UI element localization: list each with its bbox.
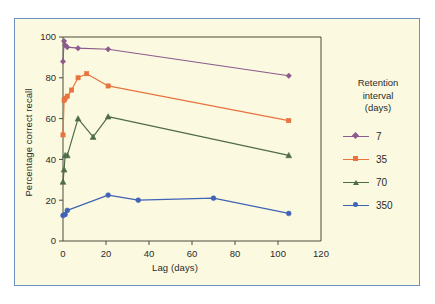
data-point (61, 133, 65, 137)
series-35 (61, 72, 291, 137)
x-tick-label: 100 (270, 248, 286, 259)
data-point (60, 59, 65, 64)
data-point (70, 88, 74, 92)
x-tick-label: 60 (187, 248, 198, 259)
data-point (106, 193, 111, 198)
data-point (136, 198, 141, 203)
x-tick-label: 20 (101, 248, 112, 259)
legend: Retention interval (days) 73570350 (337, 77, 419, 217)
y-tick-label: 40 (45, 154, 56, 165)
legend-item-350[interactable]: 350 (337, 194, 419, 217)
data-point (287, 119, 291, 123)
data-point (65, 208, 70, 213)
y-tick-label: 100 (40, 31, 56, 42)
legend-item-label: 7 (376, 131, 382, 142)
x-tick-label: 40 (144, 248, 155, 259)
legend-item-label: 350 (376, 200, 393, 211)
legend-marker-icon (353, 180, 359, 185)
axes (63, 37, 321, 241)
legend-marker-icon (353, 156, 358, 161)
legend-title: Retention interval (days) (337, 77, 419, 115)
data-point (75, 116, 81, 121)
x-axis-ticks: 020406080100120 (60, 241, 329, 259)
data-point (211, 196, 216, 201)
x-tick-label: 120 (313, 248, 329, 259)
data-point (105, 47, 110, 52)
legend-item-7[interactable]: 7 (337, 125, 419, 148)
legend-item-70[interactable]: 70 (337, 171, 419, 194)
y-tick-label: 80 (45, 72, 56, 83)
data-point (76, 76, 80, 80)
legend-title-line-2: interval (337, 90, 419, 103)
data-point (60, 179, 66, 184)
y-tick-label: 60 (45, 113, 56, 124)
y-tick-label: 0 (51, 235, 56, 246)
legend-items: 73570350 (337, 125, 419, 217)
data-point (85, 72, 89, 76)
legend-title-line-3: (days) (337, 102, 419, 115)
legend-swatch-icon (343, 178, 369, 187)
y-tick-label: 20 (45, 195, 56, 206)
legend-item-35[interactable]: 35 (337, 148, 419, 171)
series-70 (60, 114, 292, 185)
x-axis-title: Lag (days) (15, 262, 335, 273)
y-axis-title: Percentage correct recall (23, 83, 34, 203)
legend-swatch-icon (343, 201, 369, 210)
x-tick-label: 0 (60, 248, 65, 259)
figure-panel: 020406080100020406080100120 Percentage c… (14, 18, 420, 286)
legend-marker-icon (353, 202, 358, 207)
data-point (105, 114, 111, 119)
data-point (75, 46, 80, 51)
data-point (65, 94, 69, 98)
legend-item-label: 35 (376, 154, 387, 165)
legend-swatch-icon (343, 132, 369, 141)
data-point (286, 211, 291, 216)
data-point (106, 84, 110, 88)
legend-marker-icon (352, 132, 359, 139)
series-7 (60, 38, 291, 78)
plot-area: 020406080100020406080100120 Percentage c… (15, 19, 335, 287)
data-point (61, 167, 67, 172)
legend-title-line-1: Retention (337, 77, 419, 90)
series-350 (61, 193, 292, 218)
legend-swatch-icon (343, 155, 369, 164)
legend-item-label: 70 (376, 177, 387, 188)
data-point (286, 73, 291, 78)
chart-svg: 020406080100020406080100120 (15, 19, 335, 287)
y-axis-ticks: 020406080100 (40, 31, 63, 246)
x-tick-label: 80 (230, 248, 241, 259)
